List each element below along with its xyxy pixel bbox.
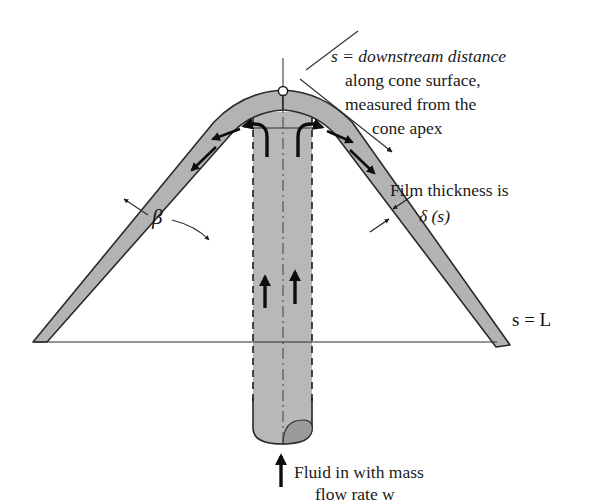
inlet-line1: Fluid in with mass [294,462,424,482]
diagram-canvas: s = downstream distance along cone surfa… [0,0,591,503]
downstream-distance-line1: s = downstream distance [331,46,506,66]
cone-angle-label: β [151,205,163,229]
double-arrow-icon-inner [370,219,389,232]
inlet-annotation: Fluid in with mass flow rate w [281,456,424,503]
film-thickness-line2: δ (s) [419,206,450,226]
film-thickness-line1: Film thickness is [390,180,509,200]
feed-tube [253,96,312,444]
downstream-distance-line3: measured from the [345,94,476,114]
cone-film-diagram: s = downstream distance along cone surfa… [0,0,591,503]
apex-point-icon [278,86,287,95]
downstream-distance-line4: cone apex [372,118,443,138]
downstream-distance-line2: along cone surface, [345,70,481,90]
leader-arrow-icon-beta-lower [172,220,209,240]
slant-length-label: s = L [512,309,551,330]
inlet-line2: flow rate w [315,484,395,503]
